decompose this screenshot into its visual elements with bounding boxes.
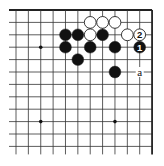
go-board-diagram: 21 a xyxy=(0,0,164,166)
star-point-icon xyxy=(39,120,43,124)
black-stone xyxy=(72,29,84,41)
black-stone xyxy=(60,41,72,53)
move-number: 1 xyxy=(137,42,143,53)
white-stone xyxy=(109,17,121,29)
star-point-icon xyxy=(39,45,43,49)
black-stone xyxy=(109,41,121,53)
black-stone-move-1: 1 xyxy=(134,41,146,53)
point-label-a: a xyxy=(137,66,142,78)
white-stone xyxy=(97,17,109,29)
point-labels: a xyxy=(136,66,144,78)
white-stone xyxy=(121,29,133,41)
white-stone xyxy=(84,17,96,29)
black-stone xyxy=(72,54,84,66)
white-stone-move-2: 2 xyxy=(134,29,146,41)
black-stone xyxy=(84,41,96,53)
white-stone xyxy=(84,29,96,41)
black-stone xyxy=(109,66,121,78)
star-point-icon xyxy=(113,120,117,124)
black-stone xyxy=(60,29,72,41)
black-stone xyxy=(97,29,109,41)
move-number: 2 xyxy=(137,29,142,40)
